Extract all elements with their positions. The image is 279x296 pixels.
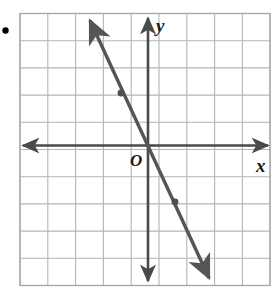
x-axis-label: x [255,155,266,176]
data-point-2 [172,199,179,206]
y-axis-label: y [154,15,165,36]
origin-label: O [130,151,142,170]
data-point-1 [118,90,125,97]
bullet-icon [2,27,8,33]
graph-figure: y x O [0,0,279,296]
grid [20,14,270,286]
coordinate-plane-svg: y x O [0,0,279,296]
